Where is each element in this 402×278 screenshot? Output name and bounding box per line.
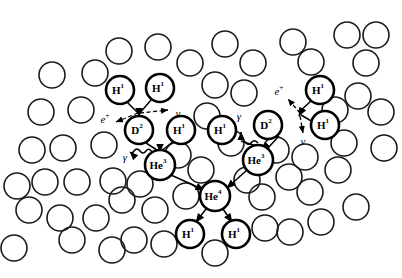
neutrino-label-right: v: [301, 135, 306, 147]
nucleus-h1-h: H1: [222, 220, 250, 248]
nucleus-h1-e: H1: [306, 76, 334, 104]
link-neutrino-right: [300, 116, 303, 133]
background-nucleus: [19, 137, 45, 163]
link-h1e-to-vertex-right: [299, 101, 311, 112]
background-nucleus: [298, 49, 324, 75]
gamma-label-right: γ: [237, 110, 242, 122]
reactant-nuclei-layer: H1 H1 D2 H1 He3 He4: [106, 74, 339, 248]
background-nucleus: [68, 97, 94, 123]
link-positron-right: [288, 99, 300, 113]
background-nucleus: [28, 99, 54, 125]
background-nucleus: [252, 215, 278, 241]
nucleus-h1-g: H1: [176, 220, 204, 248]
background-nucleus: [142, 197, 168, 223]
background-nucleus: [277, 219, 303, 245]
nucleus-h1-d: H1: [208, 116, 236, 144]
background-nucleus: [231, 80, 257, 106]
nucleus-he3-right: He3: [243, 145, 273, 175]
background-nucleus: [368, 99, 394, 125]
background-nucleus: [292, 144, 318, 170]
background-nucleus: [363, 22, 389, 48]
nucleus-h1-b: H1: [146, 74, 174, 102]
background-nucleus: [59, 227, 85, 253]
background-nucleus: [151, 231, 177, 257]
background-nucleus: [249, 184, 275, 210]
positron-label-right: e+: [274, 83, 283, 98]
nucleus-h1-a: H1: [106, 76, 134, 104]
background-nucleus: [4, 173, 30, 199]
proton-proton-chain-diagram: H1 H1 D2 H1 He3 He4: [0, 0, 402, 278]
background-nucleus: [280, 29, 306, 55]
link-vertex-to-d2-right: [299, 114, 300, 116]
link-h1a-to-vertex-left: [127, 102, 139, 114]
background-nucleus: [325, 157, 351, 183]
background-nucleus: [371, 135, 397, 161]
neutrino-label-left: v: [176, 107, 181, 119]
background-nucleus: [173, 183, 199, 209]
nucleus-d2-left: D2: [125, 116, 153, 144]
background-nucleus: [353, 50, 379, 76]
nucleus-h1-c: H1: [167, 116, 195, 144]
background-nucleus: [212, 31, 238, 57]
background-nucleus: [64, 169, 90, 195]
background-nucleus: [106, 38, 132, 64]
background-nucleus: [240, 50, 266, 76]
nucleus-d2-right: D2: [254, 111, 282, 139]
nucleus-he3-left: He3: [145, 150, 175, 180]
background-nucleus: [343, 194, 369, 220]
background-nucleus: [202, 240, 228, 266]
background-nucleus: [202, 72, 228, 98]
background-nucleus: [177, 50, 203, 76]
positron-label-left: e+: [100, 111, 109, 126]
background-nucleus: [16, 197, 42, 223]
background-nucleus: [99, 237, 125, 263]
background-nucleus: [50, 135, 76, 161]
background-nucleus: [32, 169, 58, 195]
background-nucleus: [188, 157, 214, 183]
background-nucleus: [334, 22, 360, 48]
background-nucleus: [39, 62, 65, 88]
link-neutrino-left: [140, 110, 168, 113]
nucleus-h1-f: H1: [311, 111, 339, 139]
link-he4-to-h1g: [196, 209, 206, 222]
background-nucleus: [308, 209, 334, 235]
background-nucleus: [83, 205, 109, 231]
background-nucleus: [145, 34, 171, 60]
background-nucleus: [91, 132, 117, 158]
nucleus-he4: He4: [200, 181, 230, 211]
background-nucleus: [297, 179, 323, 205]
background-nucleus: [1, 235, 27, 261]
gamma-label-left: γ: [123, 151, 128, 163]
background-nucleus: [345, 83, 371, 109]
background-nucleus: [82, 60, 108, 86]
link-gamma-left: [130, 149, 152, 153]
fusion-diagram-figure: H1 H1 D2 H1 He3 He4: [0, 0, 402, 278]
